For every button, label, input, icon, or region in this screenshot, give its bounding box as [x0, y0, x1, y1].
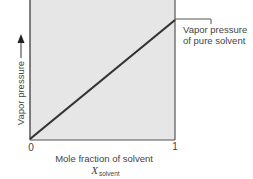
- annotation-line1: Vapor pressure: [183, 24, 247, 35]
- x-tick-0: 0: [28, 142, 34, 153]
- chart: Vapor pressure of pure solvent 0 1 Mole …: [0, 0, 253, 179]
- x-tick-1: 1: [172, 141, 178, 152]
- x-symbol-subscript: solvent: [99, 170, 120, 177]
- annotation-line2: of pure solvent: [183, 35, 246, 46]
- x-axis-label: Mole fraction of solvent: [55, 153, 153, 164]
- x-symbol: X: [90, 164, 99, 176]
- plot-area: [30, 0, 175, 140]
- arrow-up-icon: [18, 34, 25, 43]
- y-axis-label: Vapor pressure: [15, 61, 26, 125]
